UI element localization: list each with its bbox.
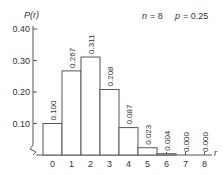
bar-value-label: 0.000 bbox=[182, 131, 191, 152]
bar bbox=[119, 128, 138, 155]
y-tick-label: 0.20 bbox=[12, 87, 30, 97]
svg-text:p: p bbox=[174, 11, 180, 21]
x-tick-label: 7 bbox=[183, 159, 188, 169]
x-tick-label: 5 bbox=[145, 159, 150, 169]
bar-value-label: 0.087 bbox=[125, 104, 134, 125]
y-tick-label: 0.30 bbox=[12, 56, 30, 66]
bar bbox=[138, 148, 157, 155]
parameter-annotation: n = 8 p = 0.25 bbox=[142, 11, 208, 21]
binomial-distribution-chart: P(r) n = 8 p = 0.25 0.100.200.300.40 012… bbox=[0, 0, 223, 175]
bar bbox=[43, 124, 62, 156]
bar-value-label: 0.100 bbox=[49, 100, 58, 121]
bar-value-label: 0.023 bbox=[144, 124, 153, 145]
bar-value-label: 0.000 bbox=[201, 131, 210, 152]
bar bbox=[81, 57, 100, 155]
svg-text:n: n bbox=[142, 11, 147, 21]
y-tick-label: 0.10 bbox=[12, 119, 30, 129]
x-tick-label: 6 bbox=[164, 159, 169, 169]
bar bbox=[157, 154, 176, 155]
bar bbox=[62, 71, 81, 155]
x-tick-label: 3 bbox=[107, 159, 112, 169]
bar-value-label: 0.311 bbox=[87, 34, 96, 54]
bars: 0.1000.2670.3110.2080.0870.0230.0040.000… bbox=[43, 34, 210, 155]
x-tick-label: 0 bbox=[50, 159, 55, 169]
bar-value-label: 0.004 bbox=[163, 130, 172, 151]
y-axis bbox=[30, 26, 36, 155]
bar bbox=[100, 89, 119, 155]
x-tick-label: 8 bbox=[202, 159, 207, 169]
bar-value-label: 0.267 bbox=[68, 47, 77, 68]
y-axis-label: P(r) bbox=[24, 10, 39, 20]
x-tick-label: 4 bbox=[126, 159, 131, 169]
x-axis-label: r bbox=[214, 148, 218, 158]
svg-text:= 8: = 8 bbox=[150, 11, 163, 21]
svg-text:= 0.25: = 0.25 bbox=[183, 11, 208, 21]
x-tick-label: 1 bbox=[69, 159, 74, 169]
x-tick-label: 2 bbox=[88, 159, 93, 169]
bar-value-label: 0.208 bbox=[106, 66, 115, 87]
y-tick-label: 0.40 bbox=[12, 24, 30, 34]
